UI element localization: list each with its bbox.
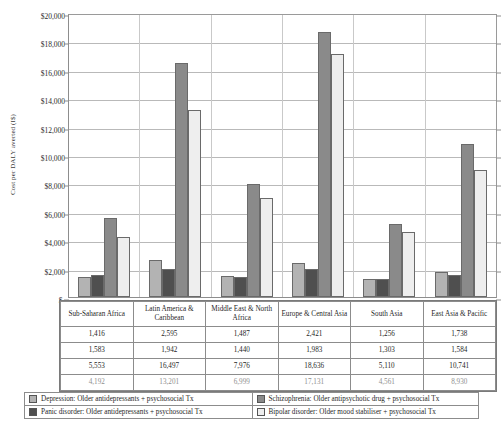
- legend-label: Schizophrenia: Older antipsychotic drug …: [269, 395, 440, 403]
- bar: [389, 224, 402, 297]
- bar-group: [282, 15, 353, 297]
- bar: [331, 54, 344, 297]
- bar: [104, 218, 117, 297]
- y-axis-title: Cost per DALY averted (I$): [6, 90, 20, 220]
- y-axis-tick-label: $12,000: [41, 125, 65, 134]
- bar: [376, 279, 389, 298]
- y-axis-tick-right: [496, 129, 501, 130]
- table-column-header: Europe & Central Asia: [278, 302, 351, 327]
- table-column-header: Latin America & Caribbean: [133, 302, 206, 327]
- y-axis-tick-label: $20,000: [41, 12, 65, 21]
- bar-chart: Cost per DALY averted (I$) $20,000$18,00…: [0, 0, 503, 300]
- legend-item: Schizophrenia: Older antipsychotic drug …: [252, 393, 479, 405]
- table-column-header: South Asia: [351, 302, 424, 327]
- bar: [91, 275, 104, 297]
- y-axis-tick-right: [496, 44, 501, 45]
- legend-label: Depression: Older antidepressants + psyc…: [41, 395, 194, 403]
- table-row: 5,55316,4977,97618,6365,11010,741: [61, 359, 496, 375]
- table-cell: 7,976: [206, 359, 279, 375]
- legend-item: Panic disorder: Older antidepressants + …: [25, 406, 252, 418]
- legend-label: Panic disorder: Older antidepressants + …: [41, 408, 203, 416]
- plot-area: $20,000$18,000$16,000$14,000$12,000$10,0…: [68, 14, 497, 298]
- bar: [318, 32, 331, 297]
- y-axis-tick-right: [496, 186, 501, 187]
- legend-swatch-icon: [257, 395, 265, 403]
- y-axis-tick-right: [496, 16, 501, 17]
- chart-legend: Depression: Older antidepressants + psyc…: [24, 392, 479, 419]
- table-row: 1,4162,5951,4872,4211,2561,738: [61, 327, 496, 343]
- table-cell: 6,999: [206, 375, 279, 391]
- bar-groups: [69, 15, 496, 297]
- bar: [234, 277, 247, 297]
- table-cell: 1,983: [278, 343, 351, 359]
- bar: [260, 198, 273, 297]
- bar: [175, 63, 188, 297]
- legend-item: Bipolar disorder: Older mood stabiliser …: [252, 406, 479, 418]
- bar: [305, 269, 318, 297]
- y-axis-tick-right: [496, 271, 501, 272]
- table-column-header: Sub-Saharan Africa: [61, 302, 134, 327]
- table-cell: 1,487: [206, 327, 279, 343]
- table-row: 4,19213,2016,99917,1314,5618,930: [61, 375, 496, 391]
- table-cell: 1,256: [351, 327, 424, 343]
- legend-item: Depression: Older antidepressants + psyc…: [25, 393, 252, 405]
- bar: [149, 260, 162, 297]
- table-cell: 10,741: [423, 359, 496, 375]
- bar: [461, 144, 474, 297]
- bar: [117, 237, 130, 297]
- bar: [474, 170, 487, 297]
- y-axis-tick-right: [496, 243, 501, 244]
- table-column-header: East Asia & Pacific: [423, 302, 496, 327]
- legend-label: Bipolar disorder: Older mood stabiliser …: [269, 408, 436, 416]
- table-body: 1,4162,5951,4872,4211,2561,7381,5831,942…: [61, 327, 496, 391]
- bar: [221, 276, 234, 297]
- table-cell: 16,497: [133, 359, 206, 375]
- y-axis-tick-right: [496, 101, 501, 102]
- table-cell: 18,636: [278, 359, 351, 375]
- bar-group: [425, 15, 496, 297]
- y-axis-tick-right: [496, 72, 501, 73]
- table-cell: 2,595: [133, 327, 206, 343]
- table-cell: 4,561: [351, 375, 424, 391]
- table-column-header: Middle East & North Africa: [206, 302, 279, 327]
- y-axis-tick-label: $8,000: [44, 182, 65, 191]
- table-cell: 1,303: [351, 343, 424, 359]
- table-header-row: Sub-Saharan AfricaLatin America & Caribb…: [61, 302, 496, 327]
- table-cell: 5,110: [351, 359, 424, 375]
- bar: [247, 184, 260, 297]
- table-cell: 1,416: [61, 327, 134, 343]
- bar: [162, 269, 175, 297]
- y-axis-tick-label: $6,000: [44, 210, 65, 219]
- table-cell: 5,553: [61, 359, 134, 375]
- table-cell: 1,738: [423, 327, 496, 343]
- bar: [188, 110, 201, 297]
- bar-group: [353, 15, 424, 297]
- y-axis-tick-label: $14,000: [41, 97, 65, 106]
- table-cell: 4,192: [61, 375, 134, 391]
- bar: [402, 232, 415, 297]
- y-axis-tick-label: $2,000: [44, 267, 65, 276]
- legend-row: Panic disorder: Older antidepressants + …: [25, 405, 478, 418]
- bar: [292, 263, 305, 297]
- table-cell: 8,930: [423, 375, 496, 391]
- data-table: Sub-Saharan AfricaLatin America & Caribb…: [59, 300, 497, 392]
- bar-group: [139, 15, 210, 297]
- legend-swatch-icon: [29, 408, 37, 416]
- table-cell: 1,942: [133, 343, 206, 359]
- table-cell: 13,201: [133, 375, 206, 391]
- chart-figure: Cost per DALY averted (I$) $20,000$18,00…: [0, 0, 503, 437]
- bar: [448, 275, 461, 297]
- table-cell: 17,131: [278, 375, 351, 391]
- table-row: 1,5831,9421,4401,9831,3031,584: [61, 343, 496, 359]
- table-cell: 2,421: [278, 327, 351, 343]
- table-cell: 1,440: [206, 343, 279, 359]
- bar: [363, 279, 376, 297]
- legend-row: Depression: Older antidepressants + psyc…: [25, 393, 478, 405]
- bar: [78, 277, 91, 297]
- y-axis-tick-label: $4,000: [44, 239, 65, 248]
- y-axis-tick-right: [496, 214, 501, 215]
- table-cell: 1,583: [61, 343, 134, 359]
- table-cell: 1,584: [423, 343, 496, 359]
- y-axis-tick-label: $10,000: [41, 154, 65, 163]
- y-axis-tick-label: $16,000: [41, 68, 65, 77]
